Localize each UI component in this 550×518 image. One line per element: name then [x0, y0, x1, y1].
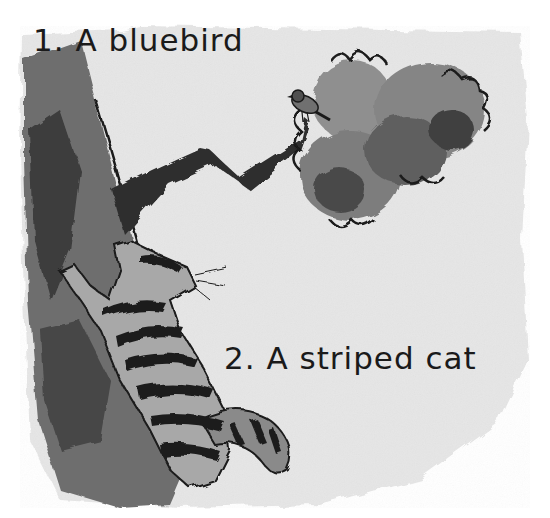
illustration-artwork: [0, 0, 550, 518]
illustration: 1. A bluebird 2. A striped cat: [0, 0, 550, 518]
caption-bluebird: 1. A bluebird: [33, 22, 244, 58]
caption-striped-cat: 2. A striped cat: [224, 340, 477, 376]
